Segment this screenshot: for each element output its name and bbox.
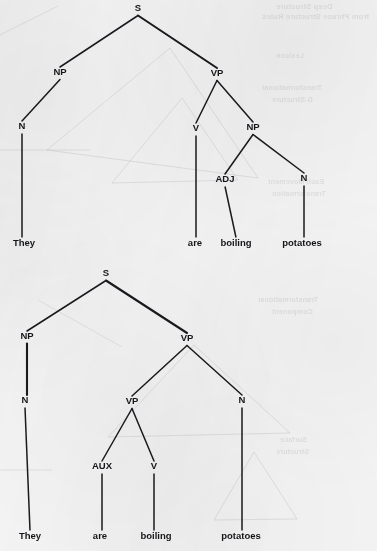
tree-node-label: NP	[20, 330, 34, 341]
tree-edge	[138, 16, 217, 69]
watermark-shapes	[0, 6, 297, 520]
tree-edge	[22, 80, 60, 122]
tree-leaf-word: are	[188, 237, 202, 248]
tree-node-label: S	[103, 267, 109, 278]
tree-edge	[60, 16, 138, 68]
figure-page: Deep Structurefrom Phrase Structure Rule…	[0, 0, 377, 551]
tree-node-label: ADJ	[215, 173, 234, 184]
tree-leaf-word: potatoes	[221, 530, 261, 541]
tree-node-label: VP	[211, 67, 224, 78]
tree-edge	[132, 346, 187, 397]
tree-leaf-word: They	[19, 530, 42, 541]
tree-leaf-word: are	[93, 530, 107, 541]
tree-node-label: VP	[181, 332, 194, 343]
tree-leaf-word: boiling	[220, 237, 251, 248]
tree-edge	[132, 409, 154, 462]
tree-leaf-word: potatoes	[282, 237, 322, 248]
tree-node-label: AUX	[92, 460, 113, 471]
tree-edge	[225, 135, 253, 175]
tree-node-label: N	[301, 172, 308, 183]
tree-leaf-word: They	[13, 237, 36, 248]
tree-edge	[225, 187, 236, 238]
tree-node-label: NP	[53, 66, 67, 77]
tree-node-label: V	[151, 460, 158, 471]
tree-node-label: NP	[246, 121, 260, 132]
tree-edge	[25, 408, 30, 531]
tree-node-label: S	[135, 2, 141, 13]
tree-edge	[187, 346, 242, 396]
tree-labels-layer: SNPVPNVNPADJNTheyareboilingpotatoesSNPVP…	[13, 2, 322, 541]
tree-edge	[102, 409, 132, 462]
tree-edge	[253, 135, 304, 174]
tree-edge	[196, 81, 217, 124]
tree-node-label: N	[239, 394, 246, 405]
syntax-trees-canvas: SNPVPNVNPADJNTheyareboilingpotatoesSNPVP…	[0, 0, 377, 551]
tree-node-label: N	[19, 120, 26, 131]
tree-node-label: N	[22, 394, 29, 405]
tree-edge	[217, 81, 253, 123]
tree-node-label: VP	[126, 395, 139, 406]
tree-edge	[27, 281, 106, 332]
tree-node-label: V	[193, 122, 200, 133]
tree-leaf-word: boiling	[140, 530, 171, 541]
tree-edges-layer	[22, 16, 304, 531]
tree-edge	[106, 281, 187, 334]
